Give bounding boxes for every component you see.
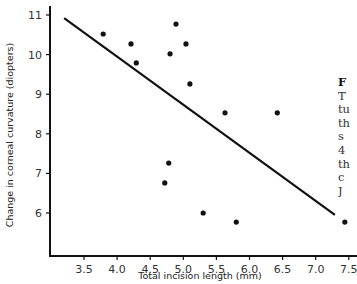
data-point (173, 22, 178, 27)
x-tick-label: 6.5 (274, 263, 292, 276)
caption-line: th (338, 158, 357, 172)
x-tick-label: 7.0 (307, 263, 325, 276)
caption-line: th (338, 117, 357, 131)
caption-line: 4 (338, 144, 357, 158)
y-tick-label: 7 (35, 167, 42, 180)
x-tick-label: 3.5 (75, 263, 93, 276)
data-point (166, 161, 171, 166)
data-point (187, 81, 192, 86)
regression-line-segment (64, 18, 335, 215)
data-point (128, 41, 133, 46)
data-point (101, 31, 106, 36)
caption-line: T (338, 90, 357, 104)
data-point (201, 210, 206, 215)
x-axis-title: Total incision length (mm) (137, 270, 261, 281)
data-point (342, 220, 347, 225)
y-tick-label: 11 (28, 9, 42, 22)
caption-line: s (338, 130, 357, 144)
data-point (275, 110, 280, 115)
x-tick-label: 7.5 (340, 263, 357, 276)
regression-line (64, 18, 335, 215)
data-point (167, 51, 172, 56)
data-point (222, 110, 227, 115)
caption-line: J (338, 185, 357, 199)
caption-line: c (338, 171, 357, 185)
x-tick-label: 4.0 (108, 263, 126, 276)
caption-line: F (338, 76, 357, 90)
y-axis-title: Change in corneal curvature (diopters) (4, 43, 15, 227)
figure-caption-fragment: FTtuths4thcJ (338, 76, 357, 198)
scatter-chart: 67891011 3.54.04.55.05.56.06.57.07.5 Tot… (0, 0, 357, 284)
y-axis: 67891011 (28, 6, 50, 257)
y-tick-label: 9 (35, 88, 42, 101)
y-tick-label: 6 (35, 207, 42, 220)
y-tick-label: 8 (35, 128, 42, 141)
y-tick-label: 10 (28, 49, 42, 62)
data-points (101, 22, 348, 225)
data-point (234, 220, 239, 225)
data-point (183, 41, 188, 46)
data-point (134, 60, 139, 65)
data-point (162, 180, 167, 185)
caption-line: tu (338, 103, 357, 117)
